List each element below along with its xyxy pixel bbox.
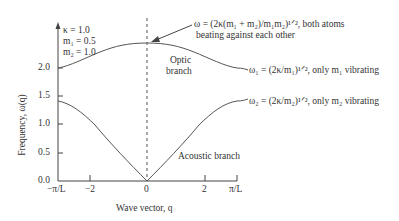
top-annotation-line1: ω = (2κ(m₁ + m₂)/m₁m₂)¹ᐟ², both atoms xyxy=(194,19,345,29)
x-tick-neg2: −2 xyxy=(85,184,95,194)
x-axis-label: Wave vector, q xyxy=(116,203,173,213)
optic-label-2: branch xyxy=(166,66,192,76)
x-tick-neg-pi: −π/L xyxy=(47,184,66,194)
y-tick-2: 2.0 xyxy=(38,62,50,72)
y-tick-1: 1.0 xyxy=(38,118,50,128)
y-axis-label: Frequency, ω(q) xyxy=(17,85,27,165)
y-axis-arrow-icon xyxy=(56,22,61,29)
y-tick-05: 0.5 xyxy=(38,147,50,157)
kappa-label: κ = 1.0 xyxy=(63,25,90,35)
x-tick-2: 2 xyxy=(202,184,207,194)
pointer-arrow-icon xyxy=(151,36,160,42)
omega1-annotation: ω₁ = (2κ/m₁)¹ᐟ², only m₁ vibrating xyxy=(249,65,379,75)
top-annotation-line2: beating against each other xyxy=(196,30,295,40)
m1-label: m₁ = 0.5 xyxy=(63,36,96,46)
optic-label-1: Optic xyxy=(170,55,191,65)
acoustic-label: Acoustic branch xyxy=(178,151,240,161)
omega2-annotation: ω₂ = (2κ/m₂)¹ᐟ², only m₂ vibrating xyxy=(249,96,379,106)
m2-label: m₂ = 1.0 xyxy=(63,47,96,57)
x-tick-pi: π/L xyxy=(229,184,242,194)
x-tick-0: 0 xyxy=(144,184,149,194)
y-tick-15: 1.5 xyxy=(38,90,50,100)
